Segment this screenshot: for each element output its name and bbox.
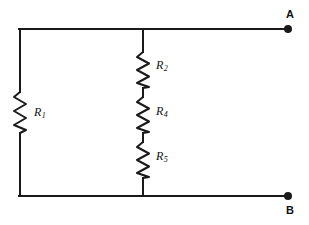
resistor-symbol-r4: [137, 97, 149, 133]
resistor-label-r5: R5: [156, 150, 168, 164]
resistor-label-r2-subscript: 2: [163, 64, 167, 73]
terminal-dot-a: [284, 25, 292, 33]
terminal-label-b: B: [286, 205, 294, 216]
circuit-diagram: R1 R2 R4 R5 A B: [0, 0, 309, 225]
resistor-label-r4: R4: [156, 105, 168, 119]
circuit-schematic-canvas: [0, 0, 309, 225]
resistor-label-r5-subscript: 5: [163, 155, 167, 164]
resistor-symbol-r1: [14, 92, 26, 133]
resistor-symbol-r2: [137, 52, 149, 88]
terminal-label-a: A: [286, 9, 294, 20]
resistor-label-r1: R1: [34, 106, 46, 120]
wires-group: [19, 29, 289, 196]
resistor-label-r4-subscript: 4: [163, 110, 167, 119]
terminal-dots-group: [284, 25, 292, 200]
resistor-symbol-r5: [137, 142, 149, 178]
resistor-label-r2: R2: [156, 59, 168, 73]
resistor-label-r1-subscript: 1: [41, 111, 45, 120]
terminal-dot-b: [284, 192, 292, 200]
